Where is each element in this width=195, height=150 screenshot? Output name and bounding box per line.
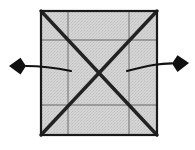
fold-diagram-canvas: [0, 0, 195, 150]
pull-arrow-right-head: [172, 55, 189, 72]
pull-arrow-left-head: [9, 58, 26, 75]
fold-diagram-container: Paper folding step diagram origami-creas…: [0, 0, 195, 150]
